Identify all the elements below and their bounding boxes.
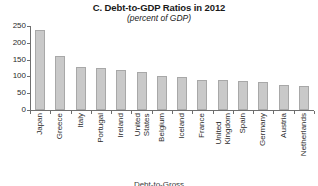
bar [218, 80, 228, 110]
bar [55, 56, 65, 110]
bar [177, 77, 187, 110]
x-axis-label-line: United [213, 121, 222, 144]
y-axis-tick-label: 0 [0, 106, 26, 114]
x-axis-label-line: Portugal [96, 113, 105, 143]
x-axis-category-label: UnitedKingdom [213, 113, 233, 183]
bar [35, 30, 45, 110]
x-axis-label-line: Kingdom [223, 113, 232, 145]
x-axis-category-label: Portugal [91, 113, 111, 183]
bar [299, 86, 309, 110]
x-axis-category-label: Netherlands [294, 113, 314, 183]
chart-figure: C. Debt-to-GDP Ratios in 2012 (percent o… [0, 0, 318, 186]
x-axis-category-label: Italy [71, 113, 91, 183]
x-axis-category-label: Germany [253, 113, 273, 183]
x-axis-label-line: Ireland [116, 113, 125, 137]
y-axis-tick-label: 50 [0, 89, 26, 97]
bar [76, 67, 86, 110]
y-axis-tick [27, 93, 30, 94]
x-axis-label-line: States [142, 113, 151, 136]
bar [137, 72, 147, 110]
y-axis-tick-label: 150 [0, 56, 26, 64]
x-axis-label-line: Netherlands [299, 113, 308, 156]
bar [279, 85, 289, 110]
x-axis-category-label: Austria [273, 113, 293, 183]
y-axis-tick [27, 26, 30, 27]
x-axis-category-label: Japan [30, 113, 50, 183]
x-axis-label-line: Italy [75, 113, 84, 128]
bar [96, 68, 106, 110]
x-axis-tick [314, 111, 315, 114]
chart-title-block: C. Debt-to-GDP Ratios in 2012 (percent o… [0, 2, 318, 23]
y-axis-tick-label: 100 [0, 72, 26, 80]
bar [197, 80, 207, 110]
x-axis-category-label: Greece [50, 113, 70, 183]
plot-area [30, 26, 314, 111]
x-axis-label-line: Belgium [157, 113, 166, 142]
y-axis-tick [27, 76, 30, 77]
x-axis-label-line: Greece [55, 113, 64, 139]
x-axis-category-label: UnitedStates [131, 113, 151, 183]
x-axis-category-label: Belgium [152, 113, 172, 183]
x-axis-label-line: France [197, 113, 206, 138]
y-axis-line [30, 26, 31, 111]
x-axis-label-line: Austria [278, 113, 287, 138]
x-axis-label-line: Iceland [177, 113, 186, 139]
x-axis-category-label: Spain [233, 113, 253, 183]
bar [258, 82, 268, 110]
y-axis-tick [27, 60, 30, 61]
x-axis-label-line: Germany [258, 113, 267, 146]
y-axis-tick-label: 200 [0, 39, 26, 47]
x-axis-label-line: Spain [238, 113, 247, 133]
bar [116, 70, 126, 110]
y-axis-tick [27, 43, 30, 44]
x-axis-category-label: France [192, 113, 212, 183]
x-axis-category-label: Iceland [172, 113, 192, 183]
x-axis-label-line: Japan [35, 113, 44, 135]
x-axis-category-label: Ireland [111, 113, 131, 183]
x-axis-category-labels: JapanGreeceItalyPortugalIrelandUnitedSta… [30, 113, 314, 186]
bar [157, 76, 167, 110]
chart-subtitle: (percent of GDP) [0, 13, 318, 23]
x-axis-label-line: United [132, 113, 141, 136]
page-title: C. Debt-to-GDP Ratios in 2012 [0, 2, 318, 13]
bar [238, 81, 248, 110]
footer-cut-text: Debt-to-Gross [0, 180, 318, 186]
y-axis-tick-label: 250 [0, 22, 26, 30]
